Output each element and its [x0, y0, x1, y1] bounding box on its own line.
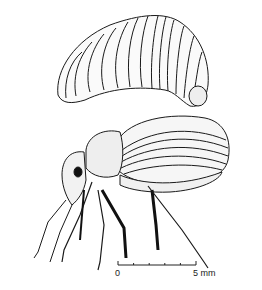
illustration [0, 0, 262, 290]
scale-start-label: 0 [115, 268, 120, 278]
adult-weevil [34, 116, 229, 270]
scale-end-label: 5 mm [193, 268, 216, 278]
scale-bar [118, 261, 196, 265]
larva [58, 16, 209, 107]
